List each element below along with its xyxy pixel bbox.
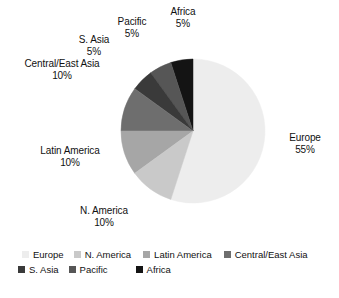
legend-swatch-pacific	[69, 266, 76, 273]
legend-item-latin-america[interactable]: Latin America	[143, 249, 212, 260]
legend-swatch-europe	[22, 251, 29, 258]
legend-item-s-asia[interactable]: S. Asia	[18, 264, 59, 275]
slice-label-latin-america-name: Latin America	[40, 145, 99, 156]
pie-plot-area: Africa 5% Pacific 5% S. Asia 5% Central/…	[0, 0, 339, 245]
legend-item-africa[interactable]: Africa	[136, 264, 171, 275]
legend-swatch-africa	[136, 266, 143, 273]
slice-label-s-asia-pct: 5%	[65, 46, 123, 58]
legend-swatch-n-america	[74, 251, 81, 258]
legend-swatch-central-east-asia	[224, 251, 231, 258]
slice-label-africa: Africa 5%	[155, 6, 211, 29]
legend-swatch-latin-america	[143, 251, 150, 258]
pie-svg	[0, 0, 339, 245]
legend-label-latin-america: Latin America	[154, 249, 212, 260]
pie-chart-figure: Africa 5% Pacific 5% S. Asia 5% Central/…	[0, 0, 339, 298]
pie-slice-group	[121, 59, 265, 203]
slice-label-n-america: N. America 10%	[62, 205, 146, 228]
slice-label-africa-pct: 5%	[155, 18, 211, 30]
chart-legend: Europe N. America Latin America Central/…	[0, 247, 339, 292]
slice-label-n-america-name: N. America	[80, 205, 128, 216]
legend-label-pacific: Pacific	[80, 264, 108, 275]
legend-label-europe: Europe	[33, 249, 64, 260]
legend-swatch-s-asia	[18, 266, 25, 273]
slice-label-s-asia: S. Asia 5%	[65, 34, 123, 57]
legend-row-2: S. Asia Pacific Africa	[0, 262, 339, 277]
legend-label-africa: Africa	[147, 264, 171, 275]
slice-label-africa-name: Africa	[171, 6, 196, 17]
legend-item-pacific[interactable]: Pacific	[69, 264, 108, 275]
legend-row-1: Europe N. America Latin America Central/…	[0, 247, 339, 262]
slice-label-central-east-asia-name: Central/East Asia	[24, 58, 99, 69]
slice-label-europe-pct: 55%	[276, 144, 334, 156]
legend-label-n-america: N. America	[85, 249, 131, 260]
slice-label-europe-name: Europe	[289, 132, 321, 143]
slice-label-latin-america: Latin America 10%	[23, 145, 117, 168]
slice-label-central-east-asia: Central/East Asia 10%	[8, 58, 116, 81]
slice-label-latin-america-pct: 10%	[23, 157, 117, 169]
slice-label-europe: Europe 55%	[276, 132, 334, 155]
slice-label-central-east-asia-pct: 10%	[8, 70, 116, 82]
legend-label-s-asia: S. Asia	[29, 264, 59, 275]
slice-label-n-america-pct: 10%	[62, 217, 146, 229]
legend-item-central-east-asia[interactable]: Central/East Asia	[224, 249, 308, 260]
legend-item-n-america[interactable]: N. America	[74, 249, 131, 260]
slice-label-pacific-name: Pacific	[118, 16, 147, 27]
slice-label-s-asia-name: S. Asia	[79, 34, 109, 45]
legend-label-central-east-asia: Central/East Asia	[235, 249, 308, 260]
legend-item-europe[interactable]: Europe	[22, 249, 64, 260]
